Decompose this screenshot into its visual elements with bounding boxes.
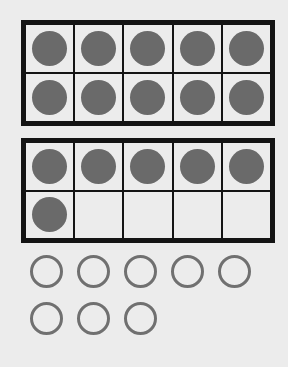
- frame-cell: [174, 25, 221, 72]
- empty-counter-icon: [124, 255, 157, 288]
- filled-counter-icon: [130, 80, 165, 115]
- empty-counter-icon: [218, 255, 251, 288]
- frame-cell: [75, 25, 122, 72]
- empty-counter-icon: [77, 302, 110, 335]
- empty-counter-icon: [124, 302, 157, 335]
- empty-counter-icon: [30, 302, 63, 335]
- frame-cell: [223, 74, 270, 121]
- filled-counter-icon: [229, 80, 264, 115]
- counter-row: [30, 302, 270, 335]
- frame-cell: [75, 192, 122, 239]
- frame-cell: [26, 143, 73, 190]
- frame-cell: [75, 74, 122, 121]
- frame-cell: [124, 192, 171, 239]
- filled-counter-icon: [229, 149, 264, 184]
- frame-cell: [75, 143, 122, 190]
- filled-counter-icon: [81, 80, 116, 115]
- frame-cell: [26, 25, 73, 72]
- frame-cell: [223, 143, 270, 190]
- filled-counter-icon: [32, 80, 67, 115]
- frame-cell: [124, 143, 171, 190]
- ten-frame-1: [21, 20, 275, 126]
- frame-cell: [26, 192, 73, 239]
- frame-cell: [124, 74, 171, 121]
- filled-counter-icon: [81, 149, 116, 184]
- empty-counter-icon: [30, 255, 63, 288]
- filled-counter-icon: [130, 31, 165, 66]
- filled-counter-icon: [32, 31, 67, 66]
- filled-counter-icon: [32, 149, 67, 184]
- loose-counters: [30, 255, 270, 349]
- frame-cell: [223, 25, 270, 72]
- ten-frame-2: [21, 138, 275, 243]
- filled-counter-icon: [180, 31, 215, 66]
- frame-cell: [174, 74, 221, 121]
- filled-counter-icon: [180, 149, 215, 184]
- frame-cell: [174, 143, 221, 190]
- counter-row: [30, 255, 270, 288]
- filled-counter-icon: [130, 149, 165, 184]
- frame-cell: [223, 192, 270, 239]
- frame-cell: [26, 74, 73, 121]
- frame-cell: [174, 192, 221, 239]
- empty-counter-icon: [77, 255, 110, 288]
- frame-cell: [124, 25, 171, 72]
- empty-counter-icon: [171, 255, 204, 288]
- filled-counter-icon: [32, 197, 67, 232]
- filled-counter-icon: [229, 31, 264, 66]
- filled-counter-icon: [180, 80, 215, 115]
- filled-counter-icon: [81, 31, 116, 66]
